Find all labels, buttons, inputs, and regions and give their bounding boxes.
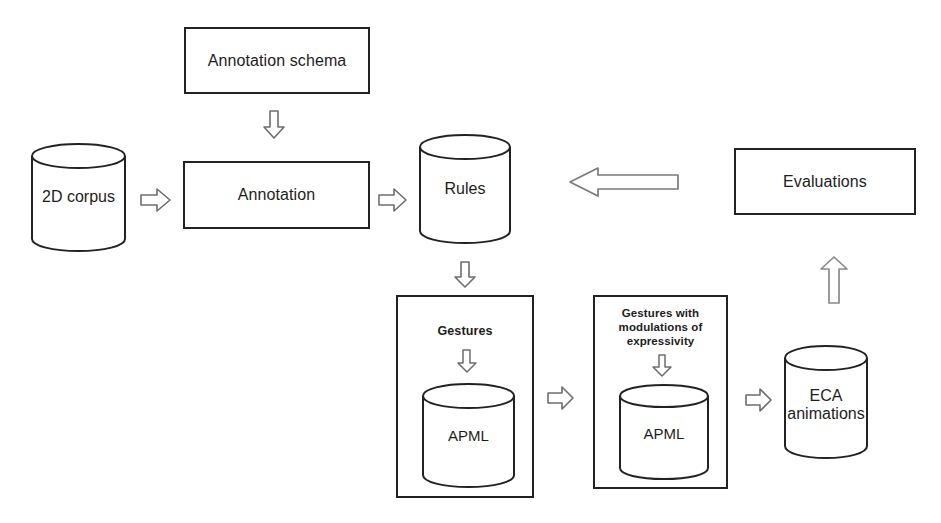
- arrow-right-icon-modulated-to-eca: [745, 388, 773, 412]
- group-gestures-modulated-title: Gestures with modulations of expressivit…: [595, 306, 726, 348]
- node-rules: Rules: [418, 133, 512, 245]
- arrow-left-long-icon-evaluations-to-rules: [568, 166, 680, 198]
- node-eca-animations: ECA animations: [783, 344, 869, 460]
- node-corpus-label: 2D corpus: [20, 188, 137, 206]
- arrow-down-icon-schema-to-annotation: [262, 110, 286, 140]
- node-rules-label: Rules: [408, 180, 522, 198]
- node-evaluations-label: Evaluations: [783, 172, 867, 191]
- node-annotation-label: Annotation: [238, 185, 316, 204]
- arrow-down-icon-modulated-title-to-apml: [652, 354, 673, 378]
- group-gestures-modulated: Gestures with modulations of expressivit…: [593, 295, 728, 489]
- node-modulated-apml-label: APML: [608, 425, 720, 442]
- group-gestures-title: Gestures: [398, 324, 532, 339]
- node-annotation-schema: Annotation schema: [184, 27, 370, 94]
- arrow-down-icon-rules-to-gestures: [453, 261, 477, 289]
- arrow-right-icon-annotation-to-rules: [378, 188, 408, 212]
- node-modulated-apml: APML: [618, 383, 710, 481]
- node-evaluations: Evaluations: [734, 148, 916, 215]
- node-annotation: Annotation: [183, 161, 370, 229]
- node-annotation-schema-label: Annotation schema: [208, 51, 347, 70]
- arrow-up-icon-eca-to-evaluations: [818, 255, 850, 305]
- arrow-right-icon-gestures-to-modulated: [547, 386, 575, 410]
- node-corpus: 2D corpus: [30, 142, 127, 253]
- node-eca-animations-label: ECA animations: [773, 387, 879, 424]
- diagram-canvas: Annotation schema 2D corpus Annotation: [0, 0, 941, 523]
- node-gestures-apml-label: APML: [411, 427, 526, 444]
- node-gestures-apml: APML: [421, 382, 516, 489]
- arrow-down-icon-gestures-title-to-apml: [456, 349, 478, 374]
- group-gestures: Gestures APML: [396, 295, 534, 498]
- arrow-right-icon-corpus-to-annotation: [140, 188, 172, 212]
